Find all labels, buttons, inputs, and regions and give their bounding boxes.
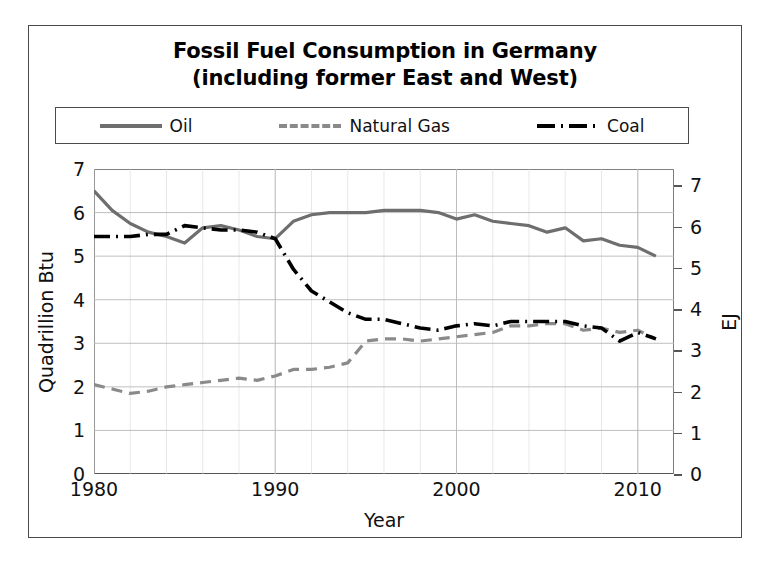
y-tick-label-6: 6 <box>73 202 85 224</box>
x-tick-label-1990: 1990 <box>251 478 299 500</box>
legend-label-coal: Coal <box>607 116 644 136</box>
legend-label-oil: Oil <box>170 116 193 136</box>
y-right-tick-mark <box>674 309 682 311</box>
legend-swatch-dashed-icon <box>279 124 341 128</box>
y-tick-label-2: 2 <box>73 376 85 398</box>
y-tick-label-3: 3 <box>73 332 85 354</box>
legend-label-natural-gas: Natural Gas <box>349 116 450 136</box>
figure-panel: Fossil Fuel Consumption in Germany (incl… <box>28 25 742 538</box>
y-right-tick-label-0: 0 <box>690 463 702 485</box>
y-axis-left-title: Quadrillion Btu <box>35 251 57 393</box>
legend-item-natural-gas: Natural Gas <box>279 116 450 136</box>
series-line-coal <box>94 226 656 341</box>
x-tick-label-1980: 1980 <box>70 478 118 500</box>
chart-title-line-1: Fossil Fuel Consumption in Germany <box>173 39 597 63</box>
x-axis-title: Year <box>364 509 404 531</box>
y-tick-label-4: 4 <box>73 289 85 311</box>
grid-minor <box>94 169 674 474</box>
y-right-tick-mark <box>674 227 682 229</box>
y-right-tick-mark <box>674 185 682 187</box>
y-right-tick-label-3: 3 <box>690 339 702 361</box>
legend-item-coal: Coal <box>537 116 644 136</box>
y-tick-label-1: 1 <box>73 419 85 441</box>
y-right-tick-label-7: 7 <box>690 174 702 196</box>
y-right-tick-label-1: 1 <box>690 422 702 444</box>
y-tick-label-7: 7 <box>73 158 85 180</box>
y-right-tick-label-2: 2 <box>690 381 702 403</box>
chart-title: Fossil Fuel Consumption in Germany (incl… <box>29 38 741 92</box>
x-tick-label-2000: 2000 <box>432 478 480 500</box>
y-right-tick-label-4: 4 <box>690 298 702 320</box>
y-right-tick-label-6: 6 <box>690 216 702 238</box>
chart-legend: Oil Natural Gas Coal <box>55 107 689 144</box>
series-line-oil <box>94 191 656 256</box>
series-lines <box>94 191 656 394</box>
plot-area: 01234567 01234567 1980199020002010 Quadr… <box>94 169 674 474</box>
y-axis-right-title: EJ <box>718 313 740 331</box>
legend-item-oil: Oil <box>100 116 193 136</box>
legend-swatch-solid-icon <box>100 124 162 128</box>
plot-canvas <box>94 169 674 474</box>
y-right-tick-mark <box>674 433 682 435</box>
y-right-tick-mark <box>674 474 682 476</box>
y-tick-label-5: 5 <box>73 245 85 267</box>
y-right-tick-mark <box>674 350 682 352</box>
chart-title-line-2: (including former East and West) <box>29 65 741 92</box>
x-tick-label-2010: 2010 <box>614 478 662 500</box>
y-right-tick-mark <box>674 392 682 394</box>
y-right-tick-label-5: 5 <box>690 257 702 279</box>
series-line-natural-gas <box>94 324 656 394</box>
y-right-tick-mark <box>674 268 682 270</box>
